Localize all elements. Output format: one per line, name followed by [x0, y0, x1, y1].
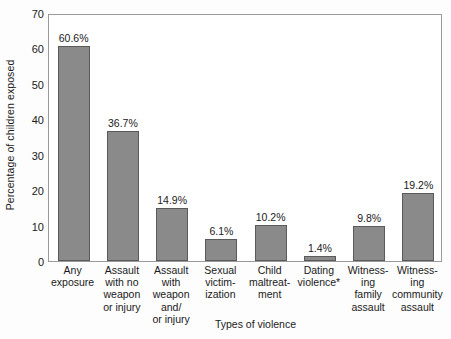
- y-axis-tick-label: 30: [18, 150, 44, 162]
- bar: [402, 193, 434, 261]
- x-axis-title: Types of violence: [0, 318, 451, 330]
- bar: [156, 208, 188, 261]
- bar-value-label: 9.8%: [357, 212, 381, 224]
- x-axis-tick-label-line: assault: [386, 301, 448, 313]
- y-axis-tick-label: 70: [18, 8, 44, 20]
- y-axis-title: Percentage of children exposed: [2, 0, 18, 270]
- bar-value-label: 60.6%: [59, 32, 89, 44]
- x-axis-tick-labels: AnyexposureAssaultwith noweaponor injury…: [48, 264, 442, 326]
- bar-value-label: 19.2%: [403, 179, 433, 191]
- bar-value-label: 36.7%: [108, 117, 138, 129]
- y-axis-tick-label: 10: [18, 221, 44, 233]
- bar: [255, 225, 287, 261]
- bar: [107, 131, 139, 261]
- bars-container: 60.6%36.7%14.9%6.1%10.2%1.4%9.8%19.2%: [49, 15, 441, 261]
- y-axis-title-text: Percentage of children exposed: [4, 60, 16, 211]
- x-axis-tick-label-line: ment: [239, 288, 301, 300]
- bar: [58, 46, 90, 261]
- bar-value-label: 1.4%: [308, 242, 332, 254]
- x-axis-title-text: Types of violence: [215, 318, 296, 330]
- y-axis-tick-label: 60: [18, 43, 44, 55]
- bar-chart-figure: Percentage of children exposed 706050403…: [0, 0, 451, 339]
- y-axis-tick-label: 20: [18, 185, 44, 197]
- x-axis-tick-label-line: community: [386, 288, 448, 300]
- bar: [205, 239, 237, 261]
- bar: [304, 256, 336, 261]
- bar-value-label: 10.2%: [256, 211, 286, 223]
- bar-value-label: 14.9%: [157, 194, 187, 206]
- bar: [353, 226, 385, 261]
- bar-value-label: 6.1%: [209, 225, 233, 237]
- y-axis-tick-label: 50: [18, 79, 44, 91]
- x-axis-tick-label-line: ing: [386, 276, 448, 288]
- y-axis-tick-label: 40: [18, 114, 44, 126]
- y-axis-tick-labels: 706050403020100: [18, 0, 44, 339]
- x-axis-tick-label-line: Witness-: [386, 264, 448, 276]
- x-axis-tick-label-line: and/: [140, 301, 202, 313]
- y-axis-tick-label: 0: [18, 256, 44, 268]
- x-axis-tick-label: Witness-ingcommunityassault: [386, 264, 448, 313]
- plot-area: 60.6%36.7%14.9%6.1%10.2%1.4%9.8%19.2%: [48, 14, 442, 262]
